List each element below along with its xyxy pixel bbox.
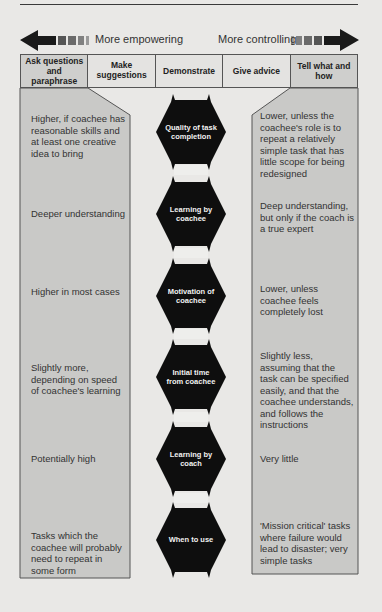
controlling-learning-text: Deep understanding, but only if the coac… [260,200,355,235]
criterion-label: Quality of task completion [164,94,218,170]
criterion-label: Motivation of coachee [164,258,218,334]
controlling-quality-text: Lower, unless the coachee's role is to r… [260,110,355,179]
left-panel [20,88,130,578]
controlling-time-text: Slightly less, assuming that the task ca… [260,350,355,431]
empowering-quality-text: Higher, if coachee has reasonable skills… [31,113,126,159]
criterion-label: Learning by coachee [164,176,218,252]
empowering-learning-text: Deeper understanding [31,208,126,220]
controlling-coach-learning-text: Very little [260,453,355,465]
criterion-motivation-of-coachee: Motivation of coachee [156,258,226,334]
criterion-initial-time-from-coachee: Initial time from coachee [156,339,226,415]
empowering-time-text: Slightly more, depending on speed of coa… [31,362,126,397]
criterion-label: When to use [164,502,218,578]
criterion-label: Initial time from coachee [164,339,218,415]
criterion-quality-of-task-completion: Quality of task completion [156,94,226,170]
criterion-learning-by-coachee: Learning by coachee [156,176,226,252]
criterion-learning-by-coach: Learning by coach [156,421,226,497]
controlling-motivation-text: Lower, unless coachee feels completely l… [260,283,355,318]
criterion-label: Learning by coach [164,421,218,497]
empowering-motivation-text: Higher in most cases [31,286,126,298]
empowering-coach-learning-text: Potentially high [31,453,126,465]
criterion-when-to-use: When to use [156,502,226,578]
empowering-when-to-use-text: Tasks which the coachee will probably ne… [31,530,126,576]
controlling-when-to-use-text: 'Mission critical' tasks where failure w… [260,520,355,566]
